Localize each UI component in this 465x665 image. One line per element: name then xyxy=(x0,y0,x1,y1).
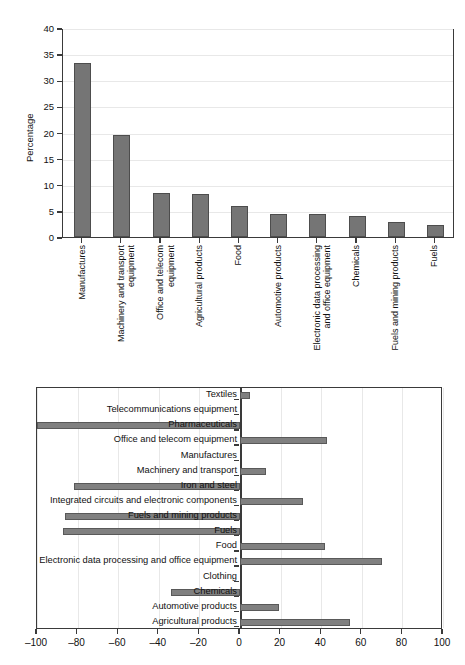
gridline-vertical xyxy=(362,388,363,628)
x-tick-mark xyxy=(159,238,160,243)
gridline-vertical xyxy=(402,388,403,628)
y-tick-mark xyxy=(57,28,62,29)
bar xyxy=(240,468,266,475)
y-tick-mark xyxy=(57,159,62,160)
x-tick-mark xyxy=(320,629,321,634)
y-tick-mark xyxy=(57,54,62,55)
y-tick-label: 0 xyxy=(14,233,54,243)
y-category-label: Manufactures xyxy=(181,451,237,460)
y-category-label: Electronic data processing and office eq… xyxy=(39,556,237,565)
gridline-vertical xyxy=(443,388,444,628)
bar xyxy=(74,63,91,238)
bar xyxy=(240,604,279,611)
x-category-label: Fuels xyxy=(429,245,440,267)
bar xyxy=(240,558,382,565)
x-category-label: Automotive products xyxy=(273,245,284,327)
x-tick-mark xyxy=(441,629,442,634)
x-category-label: Fuels and mining products xyxy=(390,245,401,351)
x-category-label: and office equipment xyxy=(322,245,333,328)
x-tick-mark xyxy=(360,629,361,634)
y-category-label: Chemicals xyxy=(194,587,237,596)
y-tick-label: 5 xyxy=(14,207,54,217)
x-category-label: Chemicals xyxy=(351,245,362,287)
y-tick-mark xyxy=(57,133,62,134)
x-category-label: Machinery and transport xyxy=(116,245,127,342)
x-tick-mark xyxy=(277,238,278,243)
bar xyxy=(427,225,444,237)
y-tick-mark xyxy=(57,185,62,186)
gridline-horizontal xyxy=(63,107,453,108)
x-tick-mark xyxy=(238,238,239,243)
y-tick-label: 40 xyxy=(14,24,54,34)
x-category-label: Manufactures xyxy=(77,245,88,300)
bar xyxy=(192,194,209,237)
bottom-plot-area xyxy=(36,387,442,629)
y-category-label: Iron and steel xyxy=(181,481,237,490)
x-category-label: equipment xyxy=(126,245,137,287)
y-tick-mark xyxy=(57,81,62,82)
bar xyxy=(231,206,248,237)
y-category-label: Agricultural products xyxy=(152,617,237,626)
x-tick-mark xyxy=(35,629,36,634)
y-category-label: Pharmaceuticals xyxy=(168,420,237,429)
x-tick-mark xyxy=(120,238,121,243)
bar xyxy=(388,222,405,237)
bottom-bar-chart: –100–80–60–40–20020406080100TextilesTele… xyxy=(0,382,465,665)
x-tick-label: 100 xyxy=(417,638,465,648)
bar xyxy=(270,214,287,237)
x-tick-mark xyxy=(117,629,118,634)
x-tick-mark xyxy=(401,629,402,634)
y-tick-mark xyxy=(57,107,62,108)
x-tick-mark xyxy=(198,629,199,634)
x-tick-mark xyxy=(279,629,280,634)
bar xyxy=(240,437,327,444)
y-category-label: Machinery and transport xyxy=(137,466,237,475)
bar xyxy=(240,543,325,550)
x-tick-mark xyxy=(434,238,435,243)
y-tick-label: 25 xyxy=(14,102,54,112)
x-category-label: Food xyxy=(233,245,244,266)
y-category-label: Automotive products xyxy=(152,602,237,611)
x-tick-mark xyxy=(81,238,82,243)
x-tick-mark xyxy=(157,629,158,634)
bar xyxy=(349,216,366,237)
gridline-horizontal xyxy=(63,81,453,82)
y-tick-label: 35 xyxy=(14,50,54,60)
y-tick-mark xyxy=(57,211,62,212)
x-tick-mark xyxy=(395,238,396,243)
bar xyxy=(153,193,170,237)
y-category-label: Clothing xyxy=(203,572,237,581)
y-category-label: Food xyxy=(216,541,237,550)
x-category-label: Electronic data processing xyxy=(312,245,323,351)
bar xyxy=(113,135,130,237)
x-tick-mark xyxy=(76,629,77,634)
bar xyxy=(240,619,350,626)
x-tick-mark xyxy=(199,238,200,243)
y-category-label: Fuels xyxy=(214,526,237,535)
top-bar-chart: 0510152025303540ManufacturesMachinery an… xyxy=(0,0,465,378)
x-category-label: Agricultural products xyxy=(194,245,205,327)
x-tick-mark xyxy=(316,238,317,243)
zero-axis-line xyxy=(240,388,242,628)
gridline-horizontal xyxy=(63,29,453,30)
y-category-label: Integrated circuits and electronic compo… xyxy=(50,496,237,505)
y-tick-label: 10 xyxy=(14,181,54,191)
figure-container: 0510152025303540ManufacturesMachinery an… xyxy=(0,0,465,665)
y-tick-mark xyxy=(57,237,62,238)
gridline-horizontal xyxy=(63,55,453,56)
y-category-label: Fuels and mining products xyxy=(128,511,237,520)
y-category-label: Telecommunications equipment xyxy=(107,405,237,414)
y-category-label: Textiles xyxy=(206,390,237,399)
x-category-label: Office and telecom xyxy=(155,245,166,320)
x-tick-mark xyxy=(238,629,239,634)
top-plot-area xyxy=(62,29,454,238)
bar xyxy=(240,498,303,505)
gridline-vertical xyxy=(321,388,322,628)
bar xyxy=(240,392,250,399)
bar xyxy=(309,214,326,237)
y-tick-label: 30 xyxy=(14,76,54,86)
x-category-label: equipment xyxy=(166,245,177,287)
gridline-vertical xyxy=(281,388,282,628)
x-tick-mark xyxy=(355,238,356,243)
y-axis-label: Percentage xyxy=(24,113,35,162)
